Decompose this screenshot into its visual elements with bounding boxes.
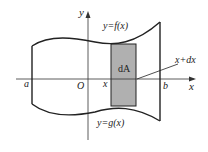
origin-label: O — [77, 80, 84, 91]
y-axis-arrow-icon — [86, 11, 91, 18]
bound-a-label: a — [24, 78, 29, 89]
strip-area-label: dA — [118, 63, 131, 74]
lower-curve-label: y=g(x) — [96, 117, 125, 129]
y-axis-label: y — [78, 6, 84, 18]
upper-curve-label: y=f(x) — [102, 20, 129, 32]
bound-b-label: b — [163, 80, 168, 91]
x-plus-dx-leader — [137, 64, 178, 79]
lower-curve-g — [32, 104, 160, 121]
x-plus-dx-label: x+dx — [174, 54, 196, 65]
strip-left-x-label: x — [102, 78, 108, 89]
area-strip-dA — [111, 44, 136, 106]
x-axis-label: x — [188, 80, 194, 92]
area-between-curves-diagram: y x O y=f(x) y=g(x) a b x dA x+dx — [0, 0, 208, 152]
upper-curve-f — [32, 22, 160, 46]
